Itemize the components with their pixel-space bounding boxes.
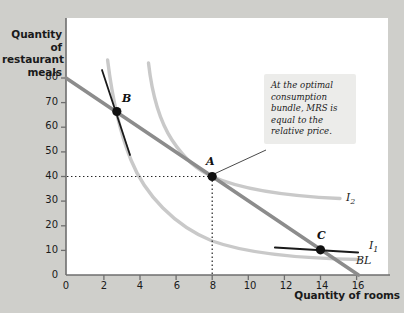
data-point-c[interactable] — [316, 245, 325, 254]
curve-label-i2-subscript: 2 — [350, 197, 355, 206]
figure-container: Quantity of restaurant meals Quantity of… — [0, 0, 404, 313]
curve-label-bl: BL — [356, 254, 371, 267]
callout-leader-line — [214, 150, 266, 174]
curve-label-i2: I2 — [346, 191, 355, 206]
data-point-b[interactable] — [112, 107, 121, 116]
annotation-callout: At the optimal consumption bundle, MRS i… — [264, 74, 356, 144]
curve-label-i1-subscript: 1 — [373, 245, 378, 254]
curve-label-i1: I1 — [369, 239, 378, 254]
data-point-label-c: C — [317, 229, 326, 242]
chart-canvas — [0, 0, 404, 313]
data-point-label-b: B — [122, 92, 131, 105]
data-point-label-a: A — [206, 155, 215, 168]
data-point-a[interactable] — [208, 172, 217, 181]
